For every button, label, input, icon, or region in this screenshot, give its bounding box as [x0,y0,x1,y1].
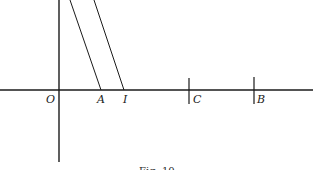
slanted-line-a [70,0,101,90]
figure-caption: Fig. 10 [139,165,175,170]
label-a: A [96,93,105,106]
label-b: B [256,93,265,106]
label-origin: O [46,93,55,106]
slanted-line-i [94,0,124,90]
label-i: I [122,93,128,106]
geometry-figure: O A I C B Fig. 10 [0,0,313,170]
label-c: C [193,93,202,106]
